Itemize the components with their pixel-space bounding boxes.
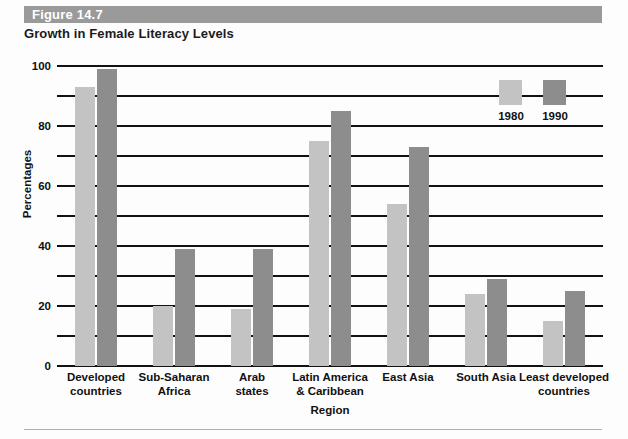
bar-1980 [153,306,173,366]
plot-area: 1980 1990 [57,66,603,366]
bar-group [291,66,369,366]
legend-swatch-1980 [499,80,522,105]
bar-group [135,66,213,366]
bar-1990 [487,279,507,366]
bar-1990 [409,147,429,366]
bar-1980 [543,321,563,366]
bar-1980 [387,204,407,366]
y-axis-title: Percentages [21,129,33,239]
y-tick-label-40: 40 [38,240,51,252]
legend-label-1990: 1990 [537,110,573,122]
y-tick-label-100: 100 [32,60,51,72]
bar-1980 [231,309,251,366]
bar-1990 [253,249,273,366]
y-tick-label-80: 80 [38,120,51,132]
x-tick-label: Least developedcountries [513,371,615,398]
bar-chart: 020406080100 Percentages 1980 1990 Devel… [0,0,628,439]
x-axis-title: Region [57,404,603,416]
y-tick-label-20: 20 [38,300,51,312]
chart-legend: 1980 1990 [493,80,597,130]
bar-1980 [309,141,329,366]
bar-group [213,66,291,366]
bar-1990 [331,111,351,366]
bar-1980 [75,87,95,366]
legend-label-1980: 1980 [493,110,529,122]
bar-group [369,66,447,366]
bottom-rule [24,429,602,430]
figure-page: Figure 14.7 Growth in Female Literacy Le… [0,0,628,439]
bar-1990 [97,69,117,366]
y-tick-label-60: 60 [38,180,51,192]
bar-group [57,66,135,366]
legend-swatch-1990 [543,80,566,105]
bar-1980 [465,294,485,366]
bar-1990 [175,249,195,366]
bar-1990 [565,291,585,366]
